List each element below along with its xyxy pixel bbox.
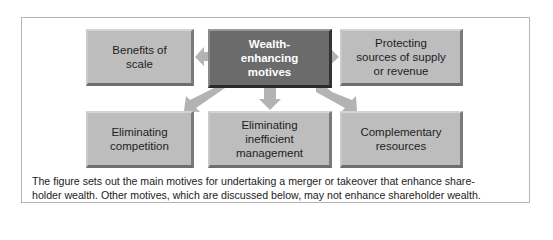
- node-label: or revenue: [374, 65, 429, 77]
- node-label: resources: [376, 140, 427, 152]
- node-label: management: [236, 147, 303, 159]
- benefits-of-scale-box: Benefits of scale: [86, 29, 194, 86]
- center-label: motives: [248, 66, 291, 78]
- node-label: Protecting: [375, 37, 427, 49]
- arrow-diagonal-right-icon: [316, 88, 357, 112]
- node-label: Eliminating: [111, 126, 167, 138]
- arrow-left-icon: [195, 47, 208, 66]
- wealth-enhancing-motives-box: Wealth- enhancing motives: [208, 29, 332, 88]
- node-label: inefficient: [245, 133, 293, 145]
- node-label: sources of supply: [356, 51, 446, 63]
- complementary-resources-box: Complementary resources: [340, 111, 463, 168]
- eliminating-competition-box: Eliminating competition: [86, 111, 194, 168]
- center-label: Wealth-: [249, 38, 290, 50]
- caption-line: holder wealth. Other motives, which are …: [32, 189, 481, 201]
- node-label: Eliminating: [241, 119, 297, 131]
- figure-caption: The figure sets out the main motives for…: [32, 175, 526, 202]
- eliminating-inefficient-management-box: Eliminating inefficient management: [208, 111, 332, 168]
- node-label: competition: [110, 140, 169, 152]
- arrow-diagonal-left-icon: [184, 88, 225, 112]
- node-label: Benefits of: [112, 44, 166, 56]
- arrow-down-icon: [259, 88, 281, 110]
- center-label: enhancing: [241, 52, 299, 64]
- caption-line: The figure sets out the main motives for…: [32, 175, 475, 187]
- protecting-sources-box: Protecting sources of supply or revenue: [340, 29, 463, 86]
- node-label: Complementary: [360, 126, 441, 138]
- node-label: scale: [126, 58, 153, 70]
